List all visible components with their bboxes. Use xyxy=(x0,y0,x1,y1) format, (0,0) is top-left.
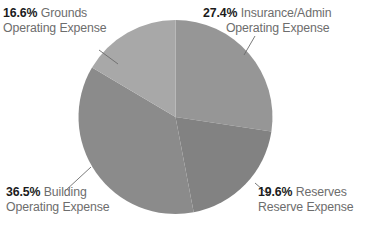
slice-percent-insurance: 27.4% xyxy=(203,6,237,20)
slice-label-insurance: 27.4% Insurance/Admin Operating Expense xyxy=(203,6,331,35)
pie-slice-insurance[interactable] xyxy=(176,20,273,132)
slice-percent-reserves: 19.6% xyxy=(258,185,292,199)
slice-percent-grounds: 16.6% xyxy=(3,6,37,20)
pie-chart-figure: 16.6% Grounds Operating Expense 27.4% In… xyxy=(0,0,367,227)
slice-label-building: 36.5% Building Operating Expense xyxy=(6,185,110,214)
leader-line-insurance xyxy=(244,36,255,55)
slice-name-building-line2: Operating Expense xyxy=(6,200,110,215)
slice-name-reserves-line2: Reserve Expense xyxy=(258,200,354,215)
slice-name-reserves-line1: Reserves xyxy=(296,185,347,199)
slice-label-reserves: 19.6% Reserves Reserve Expense xyxy=(258,185,354,214)
slice-name-insurance-line2: Operating Expense xyxy=(203,21,331,36)
slice-label-grounds: 16.6% Grounds Operating Expense xyxy=(3,6,107,35)
slice-name-grounds-line2: Operating Expense xyxy=(3,21,107,36)
slice-name-building-line1: Building xyxy=(44,185,87,199)
slice-percent-building: 36.5% xyxy=(6,185,40,199)
slice-name-insurance-line1: Insurance/Admin xyxy=(241,6,332,20)
slice-name-grounds-line1: Grounds xyxy=(41,6,87,20)
